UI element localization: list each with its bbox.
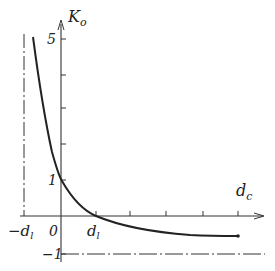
y-tick-label-1: 1 (48, 172, 57, 188)
chart: Ko dc 5 1 −1 −dl 0 dl (0, 0, 275, 271)
curve-ko (33, 37, 238, 236)
y-ticks (61, 39, 66, 254)
x-tick-label-zero: 0 (49, 223, 58, 239)
y-tick-label-neg1: −1 (42, 246, 63, 262)
y-axis-label: Ko (67, 7, 87, 29)
y-tick-label-5: 5 (47, 31, 56, 47)
x-tick-label-dl: dl (87, 222, 100, 241)
x-ticks (96, 211, 238, 216)
x-tick-label-neg-dl: −dl (8, 222, 33, 241)
curve-endpoint (236, 234, 240, 238)
x-axis-label: dc (236, 181, 252, 203)
